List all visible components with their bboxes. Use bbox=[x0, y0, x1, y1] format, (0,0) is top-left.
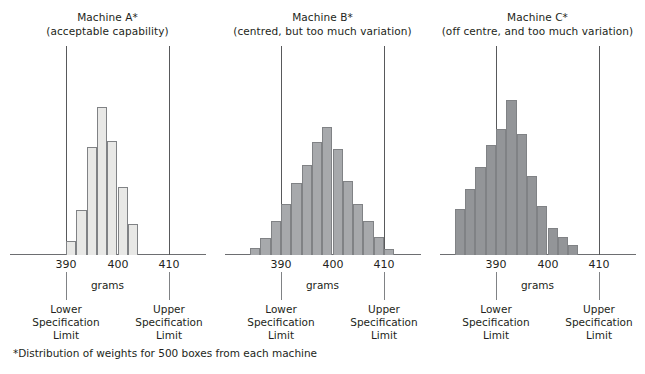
x-tick-label: 410 bbox=[374, 258, 395, 271]
spec-caption-line: Limit bbox=[123, 329, 215, 342]
spec-caption-line: Upper bbox=[553, 303, 645, 316]
spec-caption-line: Specification bbox=[20, 316, 112, 329]
upper-spec-drop-line bbox=[384, 272, 385, 300]
spec-caption-line: Lower bbox=[450, 303, 542, 316]
histogram-bar bbox=[568, 245, 578, 255]
chart-title-line: Machine C* bbox=[430, 10, 645, 24]
lower-spec-drop-line bbox=[496, 272, 497, 300]
chart-title-machine-b: Machine B* (centred, but too much variat… bbox=[215, 10, 430, 38]
plot-area-machine-b bbox=[215, 44, 430, 256]
histogram-bar bbox=[128, 224, 138, 255]
spec-caption-line: Specification bbox=[450, 316, 542, 329]
upper-spec-drop-line bbox=[169, 272, 170, 300]
histogram-bar bbox=[291, 183, 301, 255]
spec-caption-line: Limit bbox=[20, 329, 112, 342]
chart-subtitle-line: (centred, but too much variation) bbox=[215, 24, 430, 38]
chart-panel-machine-c: Machine C* (off centre, and too much var… bbox=[430, 0, 645, 360]
plot-area-machine-c bbox=[430, 44, 645, 256]
spec-caption-line: Specification bbox=[338, 316, 430, 329]
histogram-bar bbox=[548, 228, 558, 255]
capability-histograms-figure: Machine A* (acceptable capability) 390 4… bbox=[0, 0, 645, 374]
histogram-bar bbox=[537, 206, 547, 255]
histogram-bar bbox=[527, 176, 537, 255]
histogram-bar bbox=[271, 221, 281, 255]
chart-title-line: Machine B* bbox=[215, 10, 430, 24]
spec-caption-line: Lower bbox=[235, 303, 327, 316]
histogram-bar bbox=[97, 107, 107, 255]
x-tick-label: 400 bbox=[108, 258, 129, 271]
histogram-bar bbox=[506, 100, 516, 255]
x-tick-labels-machine-c: 390 400 410 bbox=[430, 258, 645, 274]
histogram-bar bbox=[475, 167, 485, 255]
x-tick-labels-machine-b: 390 400 410 bbox=[215, 258, 430, 274]
histogram-bar bbox=[312, 142, 322, 255]
upper-spec-limit-line bbox=[384, 46, 385, 255]
upper-spec-limit-caption: Upper Specification Limit bbox=[338, 303, 430, 342]
upper-spec-limit-line bbox=[599, 46, 600, 255]
chart-subtitle-line: (off centre, and too much variation) bbox=[430, 24, 645, 38]
x-axis-title: grams bbox=[430, 279, 645, 291]
histogram-bar bbox=[118, 187, 128, 255]
x-tick-label: 410 bbox=[589, 258, 610, 271]
lower-spec-drop-line bbox=[281, 272, 282, 300]
histogram-bar bbox=[374, 237, 384, 255]
lower-spec-limit-caption: Lower Specification Limit bbox=[20, 303, 112, 342]
histogram-bar bbox=[281, 204, 291, 255]
histogram-bar bbox=[363, 221, 373, 255]
lower-spec-limit-caption: Lower Specification Limit bbox=[450, 303, 542, 342]
histogram-bar bbox=[486, 145, 496, 255]
histogram-bar bbox=[107, 141, 117, 255]
upper-spec-limit-caption: Upper Specification Limit bbox=[553, 303, 645, 342]
spec-caption-line: Lower bbox=[20, 303, 112, 316]
spec-caption-line: Specification bbox=[235, 316, 327, 329]
chart-title-machine-a: Machine A* (acceptable capability) bbox=[0, 10, 215, 38]
x-tick-label: 390 bbox=[56, 258, 77, 271]
chart-title-line: Machine A* bbox=[0, 10, 215, 24]
spec-caption-line: Upper bbox=[338, 303, 430, 316]
histogram-bar bbox=[250, 248, 260, 255]
histogram-bar bbox=[87, 147, 97, 255]
upper-spec-limit-line bbox=[169, 46, 170, 255]
x-tick-label: 410 bbox=[159, 258, 180, 271]
spec-caption-line: Limit bbox=[338, 329, 430, 342]
histogram-bar bbox=[384, 249, 394, 255]
histogram-bar bbox=[322, 127, 332, 255]
x-tick-label: 390 bbox=[486, 258, 507, 271]
spec-caption-line: Limit bbox=[235, 329, 327, 342]
x-tick-label: 390 bbox=[271, 258, 292, 271]
plot-area-machine-a bbox=[0, 44, 215, 256]
histogram-bar bbox=[353, 204, 363, 255]
histogram-bar bbox=[343, 181, 353, 255]
histogram-bar bbox=[465, 189, 475, 255]
figure-footnote: *Distribution of weights for 500 boxes f… bbox=[0, 347, 330, 359]
chart-panel-machine-a: Machine A* (acceptable capability) 390 4… bbox=[0, 0, 215, 360]
histogram-bar bbox=[496, 129, 506, 255]
chart-subtitle-line: (acceptable capability) bbox=[0, 24, 215, 38]
x-tick-labels-machine-a: 390 400 410 bbox=[0, 258, 215, 274]
lower-spec-drop-line bbox=[66, 272, 67, 300]
histogram-bar bbox=[260, 238, 270, 255]
x-axis-title: grams bbox=[215, 279, 430, 291]
upper-spec-drop-line bbox=[599, 272, 600, 300]
spec-caption-line: Specification bbox=[123, 316, 215, 329]
lower-spec-limit-caption: Lower Specification Limit bbox=[235, 303, 327, 342]
upper-spec-limit-caption: Upper Specification Limit bbox=[123, 303, 215, 342]
spec-caption-line: Upper bbox=[123, 303, 215, 316]
histogram-bar bbox=[517, 134, 527, 255]
spec-caption-line: Limit bbox=[553, 329, 645, 342]
lower-spec-limit-line bbox=[66, 46, 67, 255]
histogram-bar bbox=[76, 210, 86, 255]
x-tick-label: 400 bbox=[323, 258, 344, 271]
histogram-bar bbox=[455, 209, 465, 255]
histogram-bar bbox=[558, 237, 568, 255]
histogram-bar bbox=[66, 241, 76, 255]
spec-caption-line: Limit bbox=[450, 329, 542, 342]
histogram-bar bbox=[302, 165, 312, 255]
x-axis-title: grams bbox=[0, 279, 215, 291]
chart-title-machine-c: Machine C* (off centre, and too much var… bbox=[430, 10, 645, 38]
chart-panel-machine-b: Machine B* (centred, but too much variat… bbox=[215, 0, 430, 360]
spec-caption-line: Specification bbox=[553, 316, 645, 329]
x-tick-label: 400 bbox=[538, 258, 559, 271]
histogram-bar bbox=[333, 149, 343, 255]
